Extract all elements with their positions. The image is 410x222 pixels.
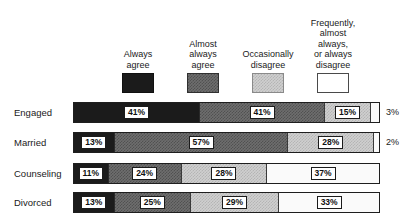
bar-segment-3[interactable]: 33% — [278, 193, 379, 212]
bar-segment-1[interactable]: 24% — [108, 164, 181, 183]
bar-row: Counseling11%24%28%37% — [0, 163, 410, 184]
bar-segment-2[interactable]: 15% — [324, 103, 370, 122]
bar-row-label-divorced: Divorced — [14, 192, 70, 213]
bar-segment-2[interactable]: 29% — [190, 193, 278, 212]
bar-row: Engaged41%41%15%3%3% — [0, 102, 410, 123]
bar-segment-3[interactable]: 37% — [266, 164, 379, 183]
legend-swatch-frequently-disagree-icon — [317, 73, 349, 93]
stacked-bar-chart: Always agreeAlmost always agreeOccasiona… — [0, 0, 410, 222]
bar-segment-value: 33% — [317, 196, 342, 209]
legend-swatch-almost-always-agree-icon — [187, 73, 219, 93]
bar-segment-2[interactable]: 28% — [287, 133, 372, 152]
legend-label-almost-always-agree: Almost always agree — [172, 39, 234, 71]
bar-segment-value: 11% — [79, 167, 104, 180]
bar-segment-value: 41% — [124, 106, 149, 119]
bar-segment-value: 29% — [222, 196, 247, 209]
bar-segment-3[interactable]: 2% — [373, 133, 379, 152]
legend-swatch-always-agree-icon — [122, 73, 154, 93]
bar-track: 13%25%29%33% — [73, 192, 380, 213]
bar-track: 41%41%15%3% — [73, 102, 380, 123]
bar-segment-1[interactable]: 25% — [114, 193, 190, 212]
bar-segment-1[interactable]: 57% — [114, 133, 288, 152]
bar-row-label-engaged: Engaged — [14, 102, 70, 123]
bar-segment-value: 13% — [81, 136, 106, 149]
chart-legend: Always agreeAlmost always agreeOccasiona… — [0, 0, 410, 96]
bar-outside-value: 3% — [386, 102, 399, 123]
bar-segment-value: 13% — [81, 196, 106, 209]
bar-outside-value: 2% — [386, 132, 399, 153]
bar-track: 11%24%28%37% — [73, 163, 380, 184]
bar-segment-0[interactable]: 41% — [74, 103, 199, 122]
legend-item-almost-always-agree[interactable]: Almost always agree — [172, 39, 234, 94]
bar-row: Divorced13%25%29%33% — [0, 192, 410, 213]
bar-row: Married13%57%28%2%2% — [0, 132, 410, 153]
bar-segment-value: 25% — [140, 196, 165, 209]
bar-segment-2[interactable]: 28% — [181, 164, 266, 183]
legend-label-occasionally-disagree: Occasionally disagree — [237, 49, 299, 70]
legend-swatch-occasionally-disagree-icon — [252, 73, 284, 93]
bar-segment-0[interactable]: 13% — [74, 133, 114, 152]
bar-row-label-counseling: Counseling — [14, 163, 70, 184]
bar-segment-value: 28% — [318, 136, 343, 149]
legend-item-always-agree[interactable]: Always agree — [107, 49, 169, 93]
bar-segment-0[interactable]: 11% — [74, 164, 108, 183]
bar-segment-value: 41% — [250, 106, 275, 119]
legend-label-always-agree: Always agree — [107, 49, 169, 70]
bar-segment-value: 28% — [211, 167, 236, 180]
bar-segment-0[interactable]: 13% — [74, 193, 114, 212]
chart-plot-area: Engaged41%41%15%3%3%Married13%57%28%2%2%… — [0, 96, 410, 222]
legend-label-frequently-disagree: Frequently, almost always, or always dis… — [302, 18, 364, 71]
bar-segment-value: 57% — [189, 136, 214, 149]
bar-track: 13%57%28%2% — [73, 132, 380, 153]
bar-segment-value: 15% — [335, 106, 360, 119]
bar-row-label-married: Married — [14, 132, 70, 153]
bar-segment-value: 24% — [132, 167, 157, 180]
legend-item-occasionally-disagree[interactable]: Occasionally disagree — [237, 49, 299, 93]
legend-item-frequently-disagree[interactable]: Frequently, almost always, or always dis… — [302, 18, 364, 94]
bar-segment-value: 37% — [311, 167, 336, 180]
bar-segment-3[interactable]: 3% — [370, 103, 379, 122]
bar-segment-1[interactable]: 41% — [199, 103, 324, 122]
